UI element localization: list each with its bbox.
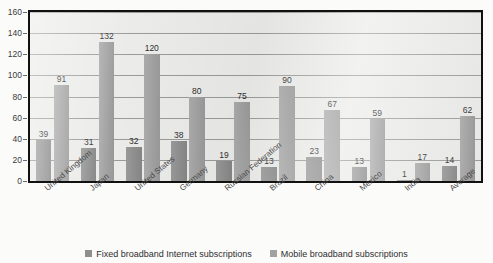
y-axis-tick-mark <box>23 75 27 76</box>
bar <box>36 140 52 181</box>
bar <box>99 42 115 181</box>
y-axis-tick-label: 40 <box>0 134 22 144</box>
y-axis-tick-mark <box>23 181 27 182</box>
bar-chart-figure: 020406080100120140160 399131132321203880… <box>0 0 493 263</box>
legend-label: Fixed broadband Internet subscriptions <box>96 249 252 259</box>
legend-swatch-icon <box>85 250 92 257</box>
y-axis-tick-mark <box>23 139 27 140</box>
bar-value-label: 67 <box>318 99 346 109</box>
bar-value-label: 91 <box>48 74 76 84</box>
bar-value-label: 80 <box>183 86 211 96</box>
bar <box>306 157 322 181</box>
y-axis-tick-label: 60 <box>0 113 22 123</box>
bar <box>324 110 340 181</box>
y-axis-tick-mark <box>23 118 27 119</box>
y-axis-tick-label: 80 <box>0 92 22 102</box>
y-axis-tick-label: 20 <box>0 155 22 165</box>
bar-value-label: 75 <box>228 91 256 101</box>
y-axis-tick-mark <box>23 160 27 161</box>
y-axis-tick-mark <box>23 97 27 98</box>
chart-legend: Fixed broadband Internet subscriptionsMo… <box>0 246 493 261</box>
bar-value-label: 17 <box>409 152 437 162</box>
gridline <box>30 118 481 119</box>
bar <box>144 54 160 181</box>
legend-item: Fixed broadband Internet subscriptions <box>85 249 252 259</box>
bar <box>126 147 142 181</box>
bar <box>279 86 295 181</box>
legend-swatch-icon <box>270 250 277 257</box>
bar <box>216 161 232 181</box>
legend-item: Mobile broadband subscriptions <box>270 249 408 259</box>
gridline <box>30 75 481 76</box>
legend-label: Mobile broadband subscriptions <box>281 249 408 259</box>
bar-value-label: 62 <box>454 105 482 115</box>
bar-value-label: 59 <box>364 108 392 118</box>
y-axis-tick-label: 100 <box>0 70 22 80</box>
y-axis-tick-label: 0 <box>0 176 22 186</box>
bar-value-label: 90 <box>273 75 301 85</box>
x-axis-category-labels: United KingdomJapanUnited StatesGermanyR… <box>0 0 493 60</box>
